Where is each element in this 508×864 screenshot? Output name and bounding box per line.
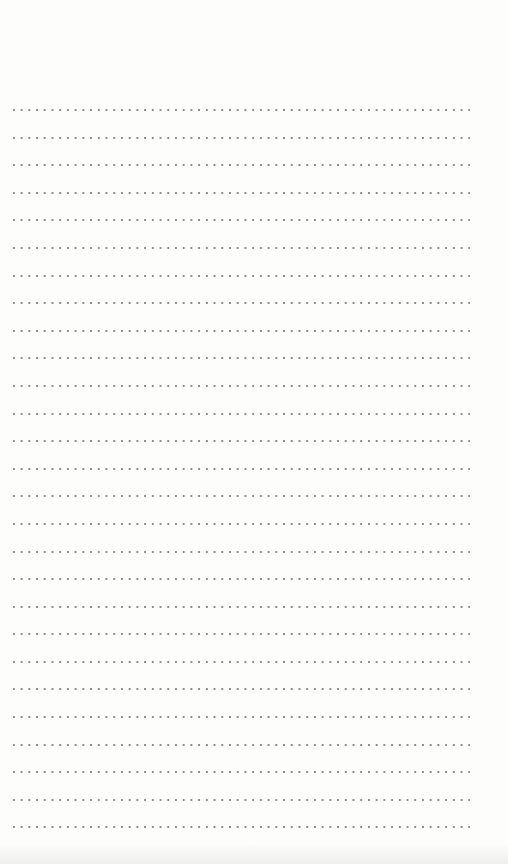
dotted-line <box>10 633 470 635</box>
dotted-lines-area <box>10 109 470 854</box>
dotted-line <box>10 330 470 332</box>
dotted-line <box>10 275 470 277</box>
dotted-line <box>10 302 470 304</box>
dotted-line <box>10 468 470 470</box>
dotted-line <box>10 826 470 828</box>
dotted-line <box>10 578 470 580</box>
dotted-line <box>10 661 470 663</box>
dotted-line <box>10 192 470 194</box>
dotted-line <box>10 413 470 415</box>
dotted-line <box>10 247 470 249</box>
dotted-line <box>10 495 470 497</box>
dotted-line <box>10 551 470 553</box>
dotted-line <box>10 385 470 387</box>
dotted-line <box>10 440 470 442</box>
dotted-line <box>10 137 470 139</box>
dotted-line <box>10 357 470 359</box>
dotted-line <box>10 109 470 111</box>
dotted-line <box>10 164 470 166</box>
dotted-line <box>10 219 470 221</box>
dotted-line <box>10 771 470 773</box>
dotted-line <box>10 688 470 690</box>
dotted-line <box>10 523 470 525</box>
dotted-line <box>10 744 470 746</box>
dotted-line <box>10 716 470 718</box>
page-bottom-edge <box>0 844 508 864</box>
dotted-line <box>10 799 470 801</box>
dotted-paper-page <box>0 0 508 864</box>
dotted-line <box>10 606 470 608</box>
